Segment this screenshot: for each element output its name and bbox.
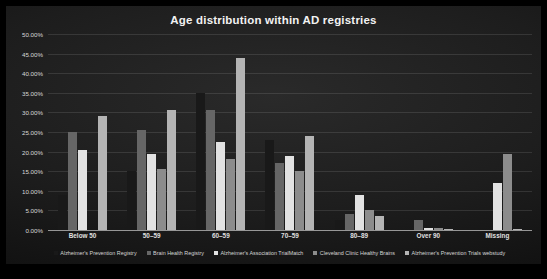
bar — [58, 195, 67, 230]
chart-legend: Alzheimer's Prevention RegistryBrain Hea… — [16, 250, 543, 256]
bar — [157, 169, 166, 230]
chart-title: Age distribution within AD registries — [6, 14, 541, 26]
legend-swatch-icon — [313, 251, 317, 255]
legend-item[interactable]: Alzheimer's Association TrialMatch — [214, 250, 303, 256]
bar — [503, 154, 512, 230]
bar — [137, 130, 146, 230]
legend-item[interactable]: Cleveland Clinic Healthy Brains — [313, 250, 395, 256]
legend-swatch-icon — [147, 251, 151, 255]
bar — [216, 142, 225, 230]
legend-item[interactable]: Alzheimer's Prevention Registry — [54, 250, 137, 256]
bar — [147, 154, 156, 230]
y-axis-tick-label: 15.00% — [22, 168, 43, 175]
y-axis-tick-label: 50.00% — [22, 31, 43, 38]
bar — [375, 216, 384, 230]
bar — [493, 183, 502, 230]
y-axis-tick-label: 25.00% — [22, 129, 43, 136]
y-axis-tick-label: 30.00% — [22, 109, 43, 116]
bar — [265, 140, 274, 230]
bar — [444, 229, 453, 230]
bar-group — [463, 34, 532, 230]
x-axis-tick-label: Below 50 — [48, 232, 117, 239]
x-axis-tick-label: 70–59 — [255, 232, 324, 239]
bar — [226, 159, 235, 230]
bar — [355, 195, 364, 230]
bar — [285, 156, 294, 230]
x-axis-tick-label: Over 90 — [394, 232, 463, 239]
legend-label: Brain Health Registry — [153, 250, 204, 256]
bar — [414, 220, 423, 230]
plot-area — [48, 34, 532, 230]
legend-swatch-icon — [54, 251, 58, 255]
bar — [78, 150, 87, 230]
bar — [305, 136, 314, 230]
legend-item[interactable]: Brain Health Registry — [147, 250, 204, 256]
legend-swatch-icon — [405, 251, 409, 255]
bar-group — [255, 34, 324, 230]
y-axis-tick-label: 35.00% — [22, 89, 43, 96]
bar — [167, 110, 176, 230]
y-axis-tick-label: 10.00% — [22, 187, 43, 194]
legend-item[interactable]: Alzheimer's Prevention Trials webstudy — [405, 250, 505, 256]
y-axis-labels: 0.00%5.00%10.00%15.00%20.00%25.00%30.00%… — [6, 34, 46, 230]
bar — [345, 214, 354, 230]
y-axis-tick-label: 20.00% — [22, 148, 43, 155]
bar — [434, 228, 443, 230]
x-axis-labels: Below 5050–5960–5970–5980–89Over 90Missi… — [48, 232, 532, 239]
gridline — [48, 230, 532, 231]
bar — [68, 132, 77, 230]
bar — [236, 58, 245, 230]
bar — [295, 171, 304, 230]
legend-label: Alzheimer's Association TrialMatch — [221, 250, 304, 256]
x-axis-tick-label: 50–59 — [117, 232, 186, 239]
bar — [275, 163, 284, 230]
bar-group — [48, 34, 117, 230]
y-axis-tick-label: 0.00% — [25, 227, 43, 234]
y-axis-tick-label: 5.00% — [25, 207, 43, 214]
chart-container: Age distribution within AD registries 0.… — [0, 0, 547, 279]
x-axis-tick-label: 80–89 — [325, 232, 394, 239]
bar-group — [186, 34, 255, 230]
bar-group — [325, 34, 394, 230]
bar — [513, 229, 522, 230]
legend-label: Alzheimer's Prevention Trials webstudy — [412, 250, 506, 256]
legend-swatch-icon — [214, 251, 218, 255]
bar — [365, 210, 374, 230]
bar-groups — [48, 34, 532, 230]
bar-group — [394, 34, 463, 230]
y-axis-tick-label: 45.00% — [22, 50, 43, 57]
legend-label: Cleveland Clinic Healthy Brains — [320, 250, 395, 256]
bar — [127, 171, 136, 230]
bar — [424, 228, 433, 230]
x-axis-tick-label: Missing — [463, 232, 532, 239]
bar — [98, 116, 107, 230]
y-axis-tick-label: 40.00% — [22, 70, 43, 77]
chart-panel: Age distribution within AD registries 0.… — [6, 6, 541, 264]
bar — [206, 110, 215, 230]
x-axis-tick-label: 60–59 — [186, 232, 255, 239]
bar — [196, 93, 205, 230]
legend-label: Alzheimer's Prevention Registry — [60, 250, 136, 256]
bar — [335, 220, 344, 230]
bar-group — [117, 34, 186, 230]
